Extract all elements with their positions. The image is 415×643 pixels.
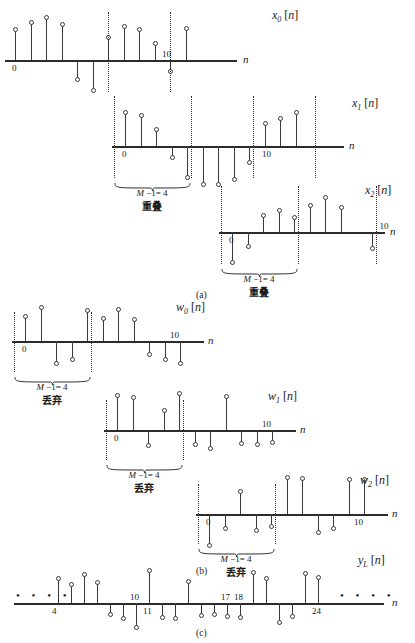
signal-w2-stem-head <box>238 489 243 494</box>
signal-x0-stem-head <box>137 27 142 32</box>
label-x1: x1 [n] <box>352 96 378 112</box>
signal-w0-stem-head <box>101 316 106 321</box>
x1-tick-0: 0 <box>122 149 127 159</box>
signal-yL-stem-head <box>108 612 113 617</box>
signal-x1-stem-head <box>154 127 159 132</box>
signal-x2-stem <box>341 209 342 232</box>
signal-yL-stem-head <box>199 613 204 618</box>
signal-w0-stem-head <box>70 357 75 362</box>
signal-x0-stem <box>124 28 125 60</box>
label-w0: w0 [n] <box>176 300 205 316</box>
signal-x1-stem-head <box>170 155 175 160</box>
x2-tick-0: 0 <box>229 235 234 245</box>
w0-axis-var: n <box>208 334 214 346</box>
signal-x2-stem <box>325 199 326 232</box>
signal-w2-stem <box>256 514 257 529</box>
signal-w2-stem <box>318 514 319 531</box>
signal-yL-stem <box>279 603 280 621</box>
signal-w2-stem-head <box>254 528 259 533</box>
signal-x0-stem-head <box>91 88 96 93</box>
signal-x0-stem <box>186 30 187 60</box>
x1-dotted-b <box>191 96 192 178</box>
signal-x2-stem <box>310 207 311 232</box>
w0-tick-0: 0 <box>22 344 27 354</box>
signal-w0-stem <box>25 318 26 341</box>
signal-yL-stem-head <box>238 615 243 620</box>
signal-yL-stem-head <box>225 614 230 619</box>
signal-w0-stem-head <box>85 308 90 313</box>
signal-w2-stem <box>349 481 350 514</box>
signal-yL-stem-head <box>264 576 269 581</box>
label-w1: w1 [n] <box>268 389 297 405</box>
signal-x0-stem-head <box>122 24 127 29</box>
signal-w0-stem-head <box>163 357 168 362</box>
signal-w2-stem-head <box>316 530 321 535</box>
yL-tick-17: 17 <box>221 592 230 602</box>
x1-axis-var: n <box>349 139 355 151</box>
w2-dotted-b <box>275 484 276 544</box>
signal-x1-stem-head <box>247 160 252 165</box>
signal-w0-stem <box>72 341 73 358</box>
signal-w0-stem <box>87 312 88 341</box>
x1-dotted-c <box>253 96 254 178</box>
w1-discard-brace <box>106 460 183 469</box>
signal-x2-stem <box>263 217 264 232</box>
signal-x2-stem-head <box>339 205 344 210</box>
x0-tick-0: 0 <box>12 63 17 73</box>
signal-yL-stem-head <box>290 614 295 619</box>
signal-x0-stem-head <box>184 26 189 31</box>
x2-dotted-a <box>221 186 222 264</box>
signal-w1-stem-head <box>193 442 198 447</box>
signal-x2-stem-head <box>370 246 375 251</box>
signal-w1-stem-head <box>224 394 229 399</box>
signal-x1-stem-head <box>278 116 283 121</box>
x0-tick-10: 10 <box>162 49 171 59</box>
signal-w1-stem-head <box>270 440 275 445</box>
signal-x1-stem <box>249 146 250 161</box>
signal-yL-stem <box>305 575 306 603</box>
signal-yL-stem <box>266 580 267 603</box>
w2-tick-0: 0 <box>206 517 211 527</box>
signal-yL-axis <box>14 603 384 605</box>
signal-w0-stem-head <box>116 307 121 312</box>
signal-w1-stem <box>226 398 227 430</box>
signal-w2-stem-head <box>331 526 336 531</box>
signal-x1-stem-head <box>123 110 128 115</box>
signal-x0-stem-head <box>44 15 49 20</box>
w1-axis-var: n <box>300 423 306 435</box>
w1-dotted-a <box>106 400 107 460</box>
w1-dotted-b <box>183 400 184 460</box>
signal-x2-axis <box>219 232 385 234</box>
signal-w1-stem <box>179 395 180 430</box>
signal-w2-stem <box>287 479 288 514</box>
x2-overlap-brace <box>221 264 298 273</box>
signal-yL-stem <box>318 579 319 603</box>
signal-x0-stem <box>77 60 78 78</box>
signal-yL-stem-head <box>316 575 321 580</box>
signal-x1-axis <box>112 146 344 148</box>
signal-yL-stem-head <box>147 568 152 573</box>
signal-w1-stem-head <box>239 441 244 446</box>
yL-right-ellipsis: • • • • <box>340 589 395 601</box>
part-label-c: (c) <box>196 628 207 638</box>
w0-dotted-a <box>14 312 15 372</box>
signal-w0-stem <box>41 309 42 341</box>
w2-tick-10: 10 <box>354 517 363 527</box>
signal-yL-stem-head <box>95 580 100 585</box>
signal-x1-stem <box>156 131 157 146</box>
signal-w2-stem-head <box>300 476 305 481</box>
w1-discard-text: 丢弃 <box>120 480 168 495</box>
signal-w1-stem-head <box>255 442 260 447</box>
signal-w1-stem <box>210 430 211 447</box>
signal-yL-stem <box>71 586 72 603</box>
signal-x1-stem-head <box>232 177 237 182</box>
signal-w0-stem <box>118 311 119 341</box>
w0-discard-brace <box>14 372 91 381</box>
signal-x1-stem <box>296 114 297 146</box>
signal-x1-stem <box>234 146 235 178</box>
w0-dotted-b <box>91 312 92 372</box>
signal-x1-stem <box>265 125 266 146</box>
signal-yL-stem <box>292 603 293 615</box>
x2-tick-10: 10 <box>380 221 389 231</box>
signal-w1-stem-head <box>146 443 151 448</box>
